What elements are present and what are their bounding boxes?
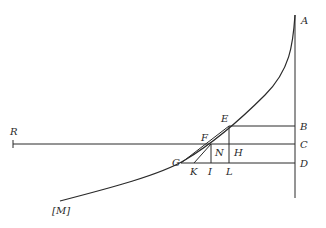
diagram-canvas: A B C D E F G H N K I L R [M] [0, 0, 326, 228]
label-a: A [300, 15, 308, 26]
curve-am [60, 15, 295, 201]
label-l: L [225, 166, 233, 177]
label-b: B [299, 121, 307, 132]
label-d: D [299, 158, 308, 169]
label-c: C [300, 139, 308, 150]
label-g: G [172, 157, 180, 168]
label-n: N [214, 147, 225, 158]
label-r: R [9, 126, 18, 137]
label-k: K [189, 166, 198, 177]
label-e: E [220, 113, 229, 124]
label-m: [M] [52, 205, 70, 216]
label-i: I [207, 166, 213, 177]
label-h: H [233, 147, 243, 158]
label-f: F [200, 132, 209, 143]
